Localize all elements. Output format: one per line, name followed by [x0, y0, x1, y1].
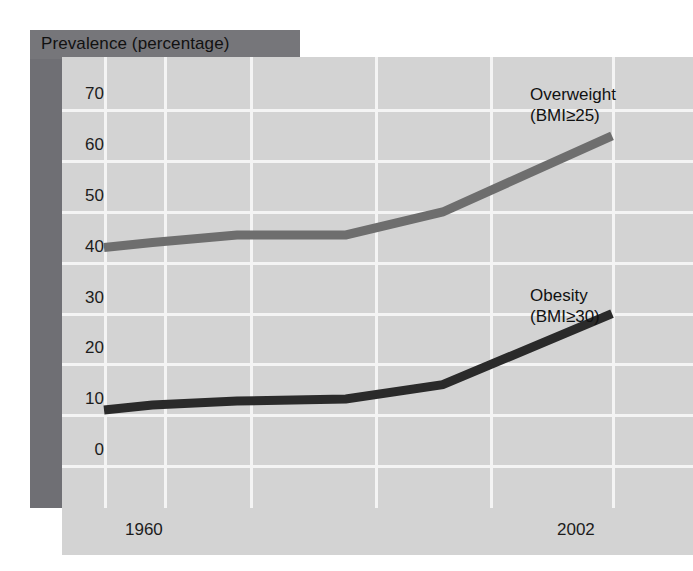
series-line-obesity — [104, 314, 612, 411]
series-label-overweight-name: Overweight — [530, 84, 616, 105]
shadow-panel-left-edge — [30, 30, 62, 508]
series-label-obesity: Obesity (BMI≥30) — [530, 285, 600, 327]
series-label-obesity-criteria: (BMI≥30) — [530, 306, 600, 327]
plot-area: 010203040506070 Overweight (BMI≥25) Obes… — [62, 57, 693, 508]
page-title: Prevalence (percentage) — [41, 34, 229, 54]
chart-figure: Prevalence (percentage) 010203040506070 … — [0, 0, 693, 571]
series-label-overweight: Overweight (BMI≥25) — [530, 84, 616, 126]
series-line-overweight — [104, 136, 612, 248]
x-axis-tick-label-start: 1960 — [125, 520, 163, 540]
x-axis-tick-label-end: 2002 — [557, 520, 595, 540]
series-label-obesity-name: Obesity — [530, 285, 600, 306]
x-axis-band: 1960 2002 — [62, 508, 693, 555]
series-label-overweight-criteria: (BMI≥25) — [530, 105, 616, 126]
